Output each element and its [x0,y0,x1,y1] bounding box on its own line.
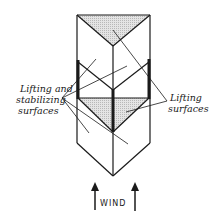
left-label-line2: stabilizing [16,94,66,105]
wind-label: WIND [100,199,126,208]
right-label-line1: Lifting [169,92,202,103]
up-arrow-icon [91,182,99,210]
up-arrow-icon [131,182,139,211]
left-label-line3: surfaces [18,105,59,116]
left-label-line1: Lifting and [19,83,73,94]
left-label: Lifting and stabilizing surfaces [16,83,73,116]
right-label-line2: surfaces [168,103,209,114]
right-label: Lifting surfaces [168,92,209,114]
kite-diagram: Lifting and stabilizing surfaces Lifting… [0,0,219,223]
